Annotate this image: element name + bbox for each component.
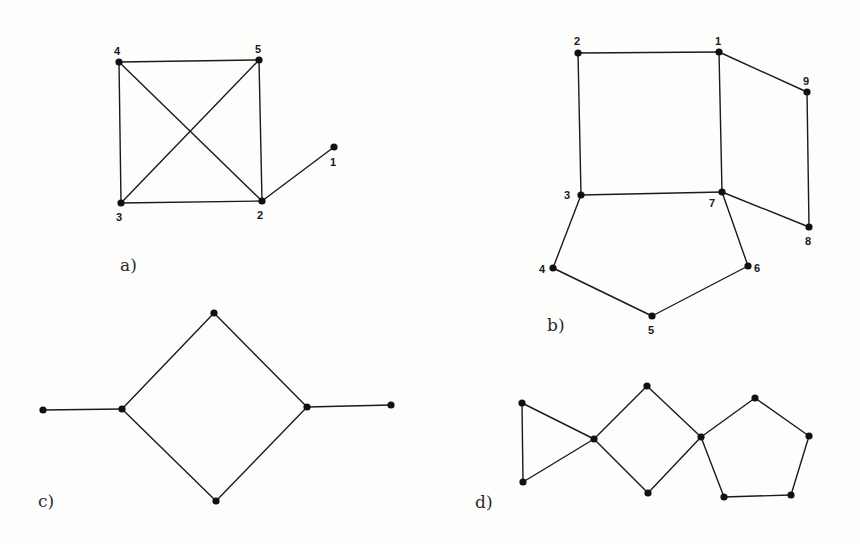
vertex [303,403,310,410]
graph-a: 12345 [114,43,338,223]
vertex [718,188,725,195]
edge [578,53,581,195]
edge [652,266,748,316]
vertex [803,88,810,95]
vertex [210,309,217,316]
edge [119,62,121,203]
vertex-label: 5 [255,43,261,55]
edge [724,495,791,497]
edge [122,313,214,409]
vertex [258,197,265,204]
vertex-label: 6 [754,262,760,274]
vertex-label: 9 [803,75,809,87]
vertex [115,58,122,65]
edge [522,403,594,439]
edge [121,201,262,203]
edge [594,439,648,493]
vertex [644,489,651,496]
vertex-label: 2 [257,209,263,221]
edge [214,313,307,407]
edge [307,405,391,407]
vertex [255,56,262,63]
vertex-label: 4 [539,263,546,275]
vertex [715,48,722,55]
vertex [787,491,794,498]
edge [578,52,719,53]
vertex [39,406,46,413]
edge [43,409,122,410]
vertex [648,312,655,319]
panel-label-a: a) [120,255,137,275]
edge [807,92,809,227]
vertex-label: 1 [715,35,721,47]
vertex-label: 8 [805,235,811,247]
vertex [577,191,584,198]
panel-label-d: d) [475,492,493,512]
graph-figure: 12345 123456789 a) b) c) d) [0,0,860,544]
edge [121,60,259,203]
edge [722,192,748,266]
vertex [519,478,526,485]
vertex-label: 4 [114,45,121,57]
vertex-label: 5 [648,324,654,336]
graph-c [39,309,394,504]
edge [594,386,647,439]
edge [216,407,307,501]
edge [553,268,652,316]
edge [701,398,755,437]
vertex [117,199,124,206]
edge [719,52,807,92]
edge [719,52,722,192]
vertex [118,405,125,412]
graph-b: 123456789 [539,35,813,336]
vertex-label: 3 [564,189,570,201]
panel-label-b: b) [547,315,565,335]
edge [755,398,809,436]
edge [523,439,594,482]
panel-label-c: c) [38,491,54,511]
vertex-label: 7 [709,197,715,209]
vertex [744,262,751,269]
edge [553,195,581,268]
vertex [697,433,704,440]
edge [648,437,701,493]
edge [119,60,259,62]
edge [122,409,216,501]
vertex [549,264,556,271]
vertex [805,223,812,230]
edge [262,147,334,201]
vertex [330,143,337,150]
edge [647,386,701,437]
vertex [720,493,727,500]
vertex [643,382,650,389]
edge [522,403,523,482]
edge [701,437,724,497]
graph-d [518,382,812,500]
edge [259,60,262,201]
edge [791,436,809,495]
vertex [751,394,758,401]
edge [581,192,722,195]
vertex-label: 2 [574,35,580,47]
vertex [212,497,219,504]
vertex [574,49,581,56]
vertex [805,432,812,439]
vertex [590,435,597,442]
vertex [518,399,525,406]
vertex-label: 3 [116,211,122,223]
vertex [387,401,394,408]
vertex-label: 1 [330,156,336,168]
edge [722,192,809,227]
